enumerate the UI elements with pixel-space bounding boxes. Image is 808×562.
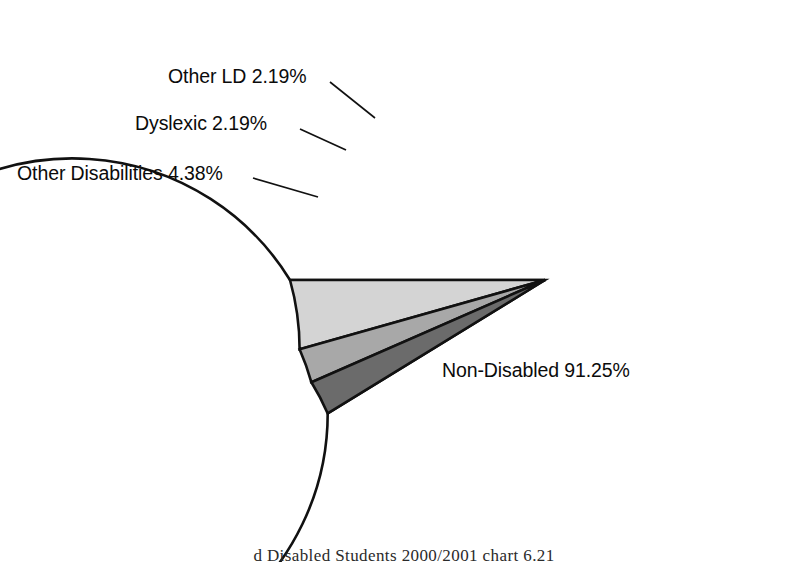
figure-caption: d Disabled Students 2000/2001 chart 6.21 <box>0 546 808 562</box>
slice-label-other-ld: Other LD 2.19% <box>168 66 306 87</box>
pie-chart-figure: Other LD 2.19% Dyslexic 2.19% Other Disa… <box>0 0 808 562</box>
slice-label-other-disabilities: Other Disabilities 4.38% <box>17 163 223 184</box>
pie-chart-canvas <box>0 0 808 562</box>
leader-line-dyslexic <box>300 129 346 150</box>
figure-caption-text: d Disabled Students 2000/2001 chart 6.21 <box>253 546 554 562</box>
leader-line-other-ld <box>330 82 375 118</box>
slice-label-dyslexic: Dyslexic 2.19% <box>135 113 267 134</box>
slice-label-non-disabled: Non-Disabled 91.25% <box>442 360 630 381</box>
leader-line-other-disabilities <box>253 178 318 197</box>
